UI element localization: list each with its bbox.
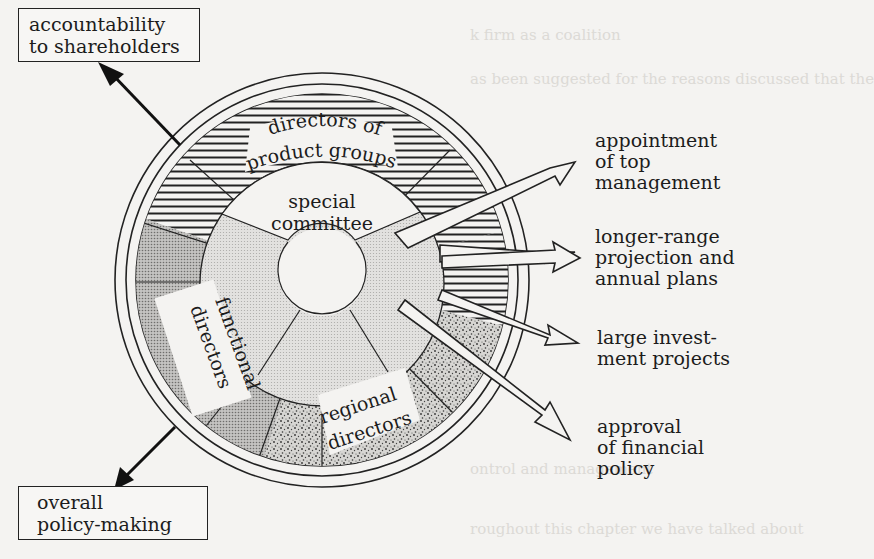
svg-text:committee: committee: [271, 212, 373, 234]
projection-label: longer-rangeprojection andannual plans: [595, 226, 735, 289]
arrow-to-policy: [124, 427, 175, 478]
special-committee-label: special: [288, 190, 355, 212]
investment-label: large invest-ment projects: [597, 327, 730, 369]
appointment-label: appointmentof topmanagement: [595, 130, 720, 193]
accountability-box: accountability to shareholders: [18, 8, 200, 62]
financial-policy-label: approvalof financialpolicy: [597, 416, 704, 479]
arrow-to-accountability: [112, 74, 180, 145]
overall-policy-box: overall policy-making: [18, 486, 208, 540]
